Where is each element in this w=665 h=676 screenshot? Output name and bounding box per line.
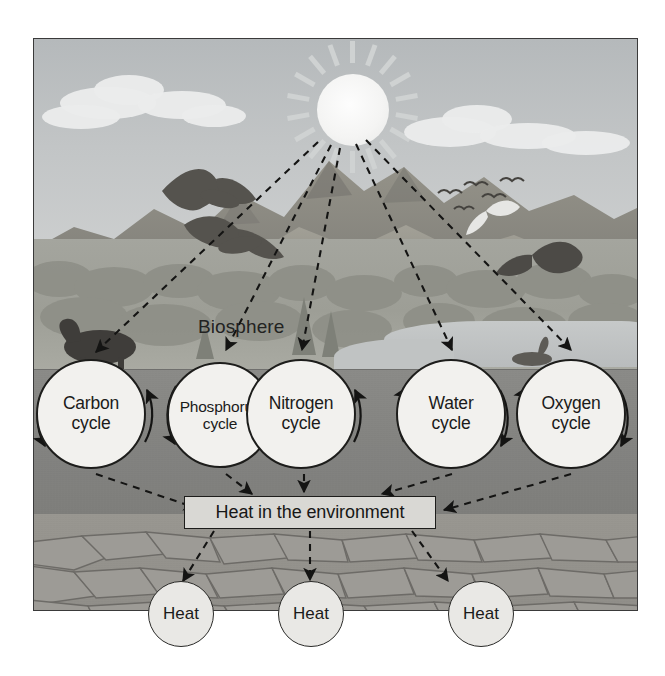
eagle-icon: [496, 242, 583, 276]
eagle-icon: [162, 169, 284, 259]
diagram-canvas: Biosphere: [0, 0, 665, 676]
heat-node-left-label: Heat: [163, 604, 199, 624]
cycle-node-carbon-label: Carbon cycle: [63, 394, 119, 433]
heat-node-right-label: Heat: [463, 604, 499, 624]
heat-node-center[interactable]: Heat: [278, 581, 344, 647]
bird-icon: [466, 201, 520, 235]
heat-node-right[interactable]: Heat: [448, 581, 514, 647]
heat-in-environment-label: Heat in the environment: [216, 502, 405, 523]
cycle-node-water-label: Water cycle: [428, 394, 473, 433]
heat-node-center-label: Heat: [293, 604, 329, 624]
biosphere-label: Biosphere: [198, 316, 284, 338]
cycle-node-oxygen[interactable]: Oxygen cycle: [516, 359, 626, 469]
cycle-node-nitrogen[interactable]: Nitrogen cycle: [246, 359, 356, 469]
waterfowl-icon: [512, 337, 552, 366]
heat-node-left[interactable]: Heat: [148, 581, 214, 647]
cycle-node-oxygen-label: Oxygen cycle: [541, 394, 600, 433]
cycle-node-water[interactable]: Water cycle: [396, 359, 506, 469]
cycle-node-nitrogen-label: Nitrogen cycle: [269, 394, 334, 433]
cycle-node-carbon[interactable]: Carbon cycle: [36, 359, 146, 469]
heat-in-environment-box[interactable]: Heat in the environment: [184, 496, 436, 529]
wildlife-layer: [34, 39, 638, 369]
